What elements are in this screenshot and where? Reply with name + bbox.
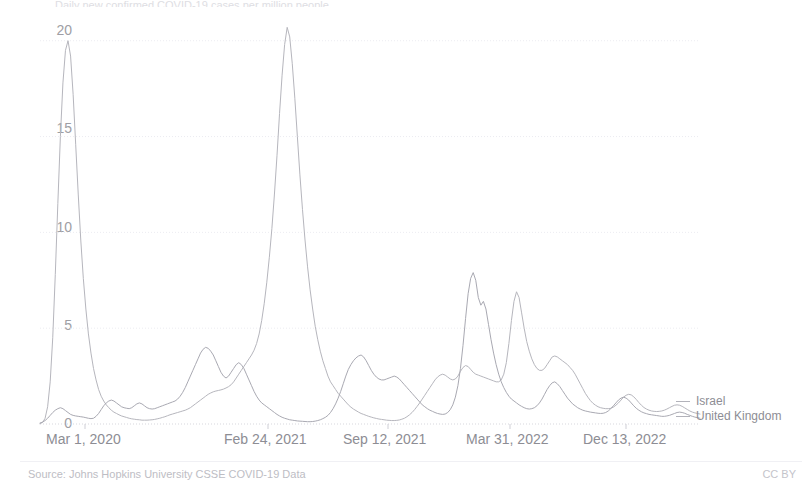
chart-canvas [40, 12, 700, 424]
source-note: Source: Johns Hopkins University CSSE CO… [28, 468, 306, 480]
legend-item-united-kingdom[interactable]: United Kingdom [676, 409, 812, 424]
x-tick-label-2: Sep 12, 2021 [343, 431, 426, 447]
series-line-united-kingdom [40, 27, 700, 423]
legend-swatch-icon [676, 416, 690, 417]
license-note: CC BY [762, 468, 796, 480]
gridlines [40, 41, 700, 424]
x-tick-label-4: Dec 13, 2022 [583, 431, 666, 447]
chart-page: Daily new confirmed COVID-19 cases per m… [0, 0, 812, 489]
legend: Israel United Kingdom [676, 394, 812, 424]
x-tick-label-1: Feb 24, 2021 [224, 431, 307, 447]
legend-label-united-kingdom: United Kingdom [696, 410, 781, 423]
footer-divider [20, 461, 802, 462]
plot-area [40, 12, 700, 424]
series-line-israel [40, 273, 700, 423]
legend-label-israel: Israel [696, 395, 725, 408]
cropped-title-text: Daily new confirmed COVID-19 cases per m… [55, 0, 615, 7]
x-tick-label-0: Mar 1, 2020 [46, 431, 121, 447]
legend-swatch-icon [676, 401, 690, 402]
x-tick-marks [85, 424, 626, 429]
x-tick-label-3: Mar 31, 2022 [466, 431, 549, 447]
legend-item-israel[interactable]: Israel [676, 394, 812, 409]
